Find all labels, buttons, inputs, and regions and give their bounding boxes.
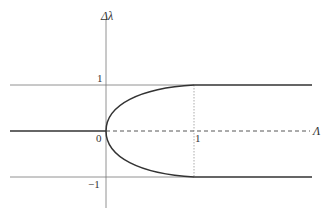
origin-label: 0 — [96, 132, 102, 144]
y-tick-minus-one: −1 — [88, 178, 100, 190]
x-tick-one: 1 — [195, 132, 201, 144]
lower-branch — [106, 131, 312, 177]
y-axis-label: Δλ — [101, 9, 113, 24]
plot-canvas — [0, 0, 330, 217]
y-tick-one: 1 — [97, 72, 103, 84]
x-axis-label: Λ — [313, 124, 320, 139]
upper-branch — [106, 85, 312, 131]
